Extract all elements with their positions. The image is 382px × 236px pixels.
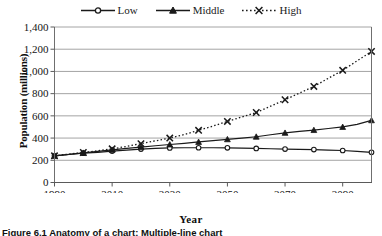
legend-sample-middle <box>156 5 190 16</box>
series-line <box>55 148 372 156</box>
x-axis-title: Year <box>0 213 382 225</box>
data-point-marker <box>340 148 345 153</box>
x-axis-tick-labels: 199020102030205020702090 <box>44 188 355 193</box>
legend-label-low: Low <box>118 5 138 16</box>
chart-legend: Low Middle High <box>0 0 382 20</box>
data-point-marker <box>282 97 288 103</box>
x-tick-label: 2050 <box>216 188 239 193</box>
y-tick-label: 800 <box>32 87 49 99</box>
y-axis-title: Population (millions) <box>17 31 29 171</box>
x-tick-label: 2070 <box>274 188 297 193</box>
legend-label-middle: Middle <box>193 5 225 16</box>
data-point-marker <box>312 147 317 152</box>
data-point-marker <box>254 146 259 151</box>
data-point-marker <box>224 118 230 124</box>
figure-container: Low Middle High <box>0 0 382 236</box>
data-point-marker <box>283 147 288 152</box>
legend-sample-low <box>81 5 115 16</box>
x-axis-ticks <box>55 183 343 187</box>
data-point-marker <box>253 109 259 115</box>
x-tick-label: 2030 <box>159 188 182 193</box>
legend-label-high: High <box>279 5 301 16</box>
line-chart-svg: 02004006008001,0001,2001,400 19902010203… <box>0 18 382 193</box>
data-point-marker <box>225 146 230 151</box>
series-layer <box>51 48 374 159</box>
data-point-marker <box>311 83 317 89</box>
x-tick-label: 2090 <box>332 188 355 193</box>
y-tick-label: 0 <box>43 176 49 188</box>
legend-sample-high <box>242 5 276 16</box>
legend-entry-middle[interactable]: Middle <box>156 5 225 16</box>
data-point-marker <box>196 145 201 150</box>
axis-lines <box>54 27 372 183</box>
y-tick-label: 200 <box>32 154 49 166</box>
y-tick-label: 600 <box>32 110 49 122</box>
x-tick-label: 1990 <box>44 188 67 193</box>
plot-area: 02004006008001,0001,2001,400 19902010203… <box>0 18 382 193</box>
series-low <box>52 145 374 158</box>
legend-entry-low[interactable]: Low <box>81 5 138 16</box>
x-tick-label: 2010 <box>101 188 124 193</box>
data-point-marker <box>339 67 345 73</box>
legend-entry-high[interactable]: High <box>242 5 301 16</box>
series-high <box>51 48 374 159</box>
figure-caption: Figure 6.1 Anatomy of a chart: Multiple-… <box>2 227 380 236</box>
y-tick-label: 400 <box>32 132 49 144</box>
